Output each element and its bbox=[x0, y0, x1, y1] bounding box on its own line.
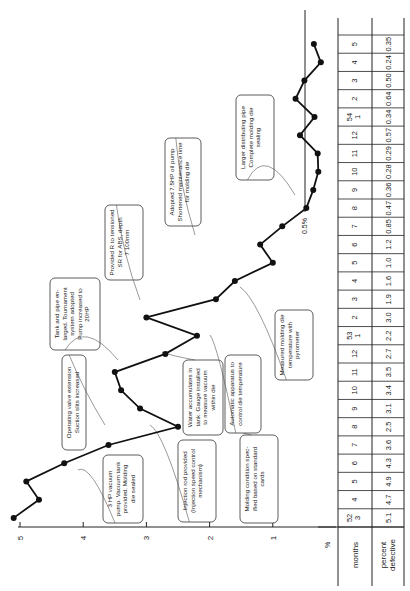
month-label: 2 bbox=[350, 97, 359, 101]
annotation-text: Complete molding die bbox=[247, 107, 254, 167]
percent-value: 1.2 bbox=[384, 239, 393, 249]
data-point bbox=[137, 406, 143, 412]
tick-label: 5 bbox=[16, 535, 25, 540]
percent-value: 4.9 bbox=[384, 476, 393, 486]
annotation-text: Provided R to tensioned bbox=[108, 209, 115, 276]
percent-value: 2.5 bbox=[384, 422, 393, 432]
data-point bbox=[23, 478, 29, 484]
month-label: 4 bbox=[350, 279, 359, 283]
percent-value: 4.7 bbox=[384, 494, 393, 504]
annotation-text: Automatic apparatus to bbox=[228, 362, 235, 426]
data-point bbox=[257, 242, 263, 248]
percent-value: 3.0 bbox=[384, 312, 393, 322]
annotation-text: SR for ABS, depth bbox=[116, 217, 123, 268]
row-header-percent-defective: percent bbox=[379, 541, 388, 568]
month-label: 4 bbox=[350, 60, 359, 64]
percent-value: 3.4 bbox=[384, 385, 393, 395]
annotation-text: 20HP bbox=[83, 306, 90, 321]
data-point bbox=[213, 296, 219, 302]
reference-line-label: 0.5% bbox=[301, 218, 308, 234]
percent-value: 2.7 bbox=[384, 349, 393, 359]
percent-value: 5.1 bbox=[384, 513, 393, 523]
annotation-text: Molding condition spec- bbox=[243, 446, 250, 511]
month-label: 3 bbox=[350, 78, 359, 82]
percent-value: 4.3 bbox=[384, 458, 393, 468]
annotation-text: cards bbox=[258, 471, 265, 486]
month-label: 1 bbox=[353, 334, 362, 338]
percent-value: 1.6 bbox=[384, 276, 393, 286]
data-point bbox=[194, 333, 200, 339]
data-point bbox=[61, 460, 67, 466]
percent-value: 0.28 bbox=[384, 164, 393, 179]
annotation-text: larged. Tournament bbox=[61, 287, 68, 340]
tick-label: 4 bbox=[79, 535, 88, 540]
month-label: 12 bbox=[350, 131, 359, 139]
annotation-text: (Injection speed control bbox=[189, 449, 196, 513]
annotation-text: sealing bbox=[254, 127, 261, 147]
percent-value: 1.0 bbox=[384, 258, 393, 268]
annotation-text: mechanism) bbox=[196, 464, 203, 498]
data-point bbox=[312, 114, 318, 120]
data-point bbox=[303, 205, 309, 211]
annotation-text: ified based on standard bbox=[251, 446, 258, 511]
annotation-text: Water accumulates in bbox=[186, 367, 193, 427]
data-point bbox=[310, 187, 316, 193]
tick-label: 3 bbox=[142, 535, 151, 540]
percent-value: 0.29 bbox=[384, 146, 393, 161]
annotation-text: Measured molding die bbox=[278, 314, 285, 375]
percent-value: 0.85 bbox=[384, 219, 393, 234]
annotation-text: Shortened maintenance time bbox=[176, 142, 183, 222]
annotation-text: Operating valve extension bbox=[65, 366, 72, 438]
month-label: 1 bbox=[353, 115, 362, 119]
annotation-text: die sealed bbox=[129, 474, 136, 503]
annotation-text: for molding die bbox=[183, 161, 190, 202]
annotation-text: Larger distributing pipe bbox=[239, 105, 246, 169]
value-axis-ticks: 54321 bbox=[16, 522, 278, 540]
annotation-text: Pump increased to bbox=[76, 288, 83, 340]
annotation-text: pump. Vacuum tank bbox=[114, 461, 121, 516]
data-point bbox=[105, 442, 111, 448]
data-point bbox=[279, 223, 285, 229]
month-label: 5 bbox=[350, 42, 359, 46]
percent-value: 1.9 bbox=[384, 294, 393, 304]
percent-value: 0.47 bbox=[384, 201, 393, 216]
percent-value: 0.57 bbox=[384, 128, 393, 143]
annotation-text: 3 HP vacuum bbox=[106, 470, 113, 507]
month-label: 7 bbox=[350, 443, 359, 447]
data-point bbox=[36, 497, 42, 503]
percent-value: 0.64 bbox=[384, 91, 393, 106]
month-label: 12 bbox=[350, 350, 359, 358]
month-label: 11 bbox=[350, 150, 359, 158]
annotation-text: provided. Molding bbox=[121, 464, 128, 513]
percent-value: 0.50 bbox=[384, 73, 393, 88]
data-point bbox=[311, 41, 317, 47]
month-label: 6 bbox=[350, 461, 359, 465]
data-point bbox=[232, 278, 238, 284]
month-label: 3 bbox=[353, 516, 362, 520]
percent-value: 2.2 bbox=[384, 330, 393, 340]
annotation-text: to measure vacuum bbox=[201, 370, 208, 424]
data-point bbox=[293, 96, 299, 102]
annotation-text: Injection rod provided bbox=[181, 451, 188, 511]
annotation-text: control die temperature bbox=[236, 362, 243, 426]
percent-value: 0.35 bbox=[384, 37, 393, 52]
percent-value: 0.24 bbox=[384, 55, 393, 70]
month-label: 5 bbox=[350, 479, 359, 483]
month-label: 8 bbox=[350, 206, 359, 210]
annotation-text: 7 100mm bbox=[123, 230, 130, 256]
month-label: 2 bbox=[350, 315, 359, 319]
month-label: 10 bbox=[350, 386, 359, 394]
data-point bbox=[162, 351, 168, 357]
value-axis-unit: % bbox=[324, 542, 331, 548]
row-header-months: months bbox=[351, 542, 360, 568]
month-label: 4 bbox=[350, 498, 359, 502]
annotation-text: pyrometer bbox=[293, 331, 300, 359]
data-point bbox=[118, 387, 124, 393]
annotation-text: Adopted 7.5HP oil pump bbox=[168, 148, 175, 216]
annotation-text: tank. Gauge installed bbox=[194, 368, 201, 427]
tick-label: 2 bbox=[206, 535, 215, 540]
month-label: 9 bbox=[350, 188, 359, 192]
annotation-text: within die bbox=[209, 384, 216, 411]
data-point bbox=[175, 424, 181, 430]
data-point bbox=[11, 515, 17, 521]
